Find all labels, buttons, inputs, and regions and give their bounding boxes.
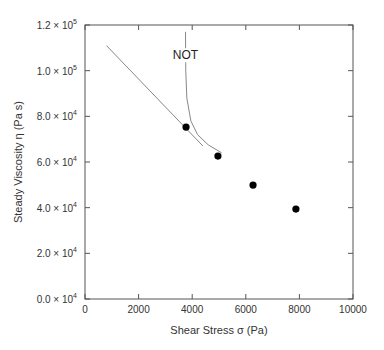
- fit-lines: [106, 32, 221, 153]
- data-point: [292, 205, 299, 212]
- x-tick-label: 0: [82, 304, 88, 315]
- y-tick-label: 1.2 × 105: [37, 18, 77, 31]
- x-tick-label: 4000: [181, 304, 204, 315]
- y-axis-label: Steady Viscosity η (Pa s): [12, 101, 24, 223]
- data-point: [249, 181, 256, 188]
- y-tick-label: 0.0 × 104: [37, 292, 77, 305]
- y-tick-label: 8.0 × 104: [37, 109, 77, 122]
- x-axis: 0200040006000800010000: [82, 25, 367, 315]
- y-tick-label: 1.0 × 105: [37, 64, 77, 77]
- x-axis-label: Shear Stress σ (Pa): [170, 324, 267, 336]
- chart: 0200040006000800010000 0.0 × 1042.0 × 10…: [0, 0, 384, 350]
- x-tick-label: 2000: [127, 304, 150, 315]
- y-tick-label: 6.0 × 104: [37, 155, 77, 168]
- y-tick-label: 4.0 × 104: [37, 201, 77, 214]
- data-point: [214, 152, 221, 159]
- x-tick-label: 8000: [288, 304, 311, 315]
- x-tick-label: 6000: [235, 304, 258, 315]
- data-point: [182, 123, 189, 130]
- annotation-not: NOT: [173, 48, 199, 62]
- plot-frame: [85, 25, 353, 299]
- y-tick-label: 2.0 × 104: [37, 246, 77, 259]
- x-tick-label: 10000: [339, 304, 367, 315]
